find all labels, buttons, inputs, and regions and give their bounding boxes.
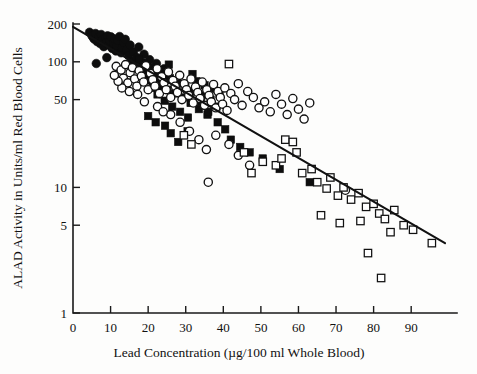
data-point-open-circle <box>176 118 184 126</box>
data-point-open-circle <box>238 101 246 109</box>
data-point-open-circle <box>294 105 302 113</box>
x-axis-title: Lead Concentration (µg/100 ml Whole Bloo… <box>114 345 365 360</box>
data-point-open-circle <box>153 65 161 73</box>
data-point-open-circle <box>202 145 210 153</box>
data-points <box>85 28 435 282</box>
trend-line-segment <box>73 27 445 243</box>
data-point-open-square <box>248 169 255 176</box>
data-point-open-circle <box>249 93 257 101</box>
data-point-open-square <box>180 132 187 139</box>
data-point-open-square <box>282 136 289 143</box>
data-point-filled-square <box>176 108 183 115</box>
x-tick-label: 70 <box>330 320 343 335</box>
data-point-open-circle <box>187 75 195 83</box>
data-point-filled-square <box>169 103 176 110</box>
x-tick-label: 80 <box>367 320 380 335</box>
data-point-open-square <box>362 203 369 210</box>
data-point-open-circle <box>159 108 167 116</box>
data-point-open-circle <box>272 90 280 98</box>
x-tick-label: 20 <box>142 320 155 335</box>
data-point-open-square <box>428 239 435 246</box>
data-point-open-square <box>289 138 296 145</box>
data-point-open-circle <box>283 110 291 118</box>
data-point-open-circle <box>110 71 118 79</box>
data-point-open-square <box>314 179 321 186</box>
data-point-open-circle <box>261 98 269 106</box>
data-point-filled-square <box>167 130 174 137</box>
data-point-filled-circle <box>103 53 112 62</box>
x-tick-label: 10 <box>104 320 117 335</box>
y-axis-tick-labels: 151050100200 <box>48 17 68 321</box>
y-tick-label: 200 <box>48 17 68 32</box>
data-point-open-square <box>323 185 330 192</box>
y-tick-label: 50 <box>54 92 67 107</box>
data-point-open-square <box>299 169 306 176</box>
data-point-filled-square <box>161 122 168 129</box>
data-point-filled-square <box>184 114 191 121</box>
data-point-open-square <box>259 158 266 165</box>
data-point-filled-square <box>144 112 151 119</box>
data-point-open-circle <box>300 115 308 123</box>
scatter-plot: 151050100200 0102030405060708090 Lead Co… <box>0 0 477 374</box>
data-point-open-square <box>336 219 343 226</box>
data-point-filled-square <box>165 61 172 68</box>
data-point-open-circle <box>198 78 206 86</box>
data-point-open-square <box>357 217 364 224</box>
data-point-open-circle <box>306 99 314 107</box>
data-point-open-circle <box>134 90 142 98</box>
data-point-open-circle <box>266 108 274 116</box>
data-point-open-square <box>400 222 407 229</box>
y-tick-label: 1 <box>61 306 68 321</box>
data-point-open-square <box>188 141 195 148</box>
data-point-open-circle <box>140 78 148 86</box>
data-point-open-circle <box>162 86 170 94</box>
data-point-open-square <box>240 149 247 156</box>
data-point-open-circle <box>277 100 285 108</box>
data-point-open-circle <box>212 131 220 139</box>
regression-line <box>73 27 445 243</box>
data-point-open-square <box>364 249 371 256</box>
data-point-open-circle <box>164 68 172 76</box>
data-point-open-circle <box>223 106 231 114</box>
data-point-open-square <box>317 212 324 219</box>
data-point-filled-square <box>221 126 228 133</box>
data-point-open-square <box>381 215 388 222</box>
data-point-filled-square <box>152 119 159 126</box>
data-point-open-circle <box>230 96 238 104</box>
x-tick-label: 50 <box>254 320 267 335</box>
x-tick-label: 0 <box>70 320 77 335</box>
chart-figure: 151050100200 0102030405060708090 Lead Co… <box>0 0 477 374</box>
y-tick-label: 100 <box>48 54 68 69</box>
data-point-filled-square <box>135 56 142 63</box>
y-axis-title: ALAD Activity in Units/ml Red Blood Cell… <box>10 47 25 289</box>
data-point-open-circle <box>234 80 242 88</box>
data-point-open-square <box>347 196 354 203</box>
data-point-open-circle <box>289 94 297 102</box>
data-point-open-circle <box>140 98 148 106</box>
data-point-open-circle <box>246 161 254 169</box>
data-point-open-square <box>334 192 341 199</box>
x-tick-label: 30 <box>179 320 192 335</box>
data-point-open-circle <box>204 178 212 186</box>
data-point-open-circle <box>176 71 184 79</box>
x-tick-label: 90 <box>405 320 418 335</box>
x-tick-label: 40 <box>217 320 230 335</box>
x-axis-tick-labels: 0102030405060708090 <box>70 320 418 335</box>
data-point-filled-circle <box>134 43 143 52</box>
data-point-open-square <box>278 155 285 162</box>
x-tick-label: 60 <box>292 320 305 335</box>
data-point-open-square <box>377 274 384 281</box>
data-point-filled-circle <box>92 59 101 68</box>
y-tick-label: 5 <box>61 218 68 233</box>
data-point-open-square <box>387 228 394 235</box>
data-point-filled-square <box>306 179 313 186</box>
data-point-filled-square <box>214 119 221 126</box>
data-point-open-circle <box>195 136 203 144</box>
data-point-open-circle <box>225 140 233 148</box>
data-point-open-square <box>225 60 232 67</box>
y-tick-label: 10 <box>54 180 67 195</box>
